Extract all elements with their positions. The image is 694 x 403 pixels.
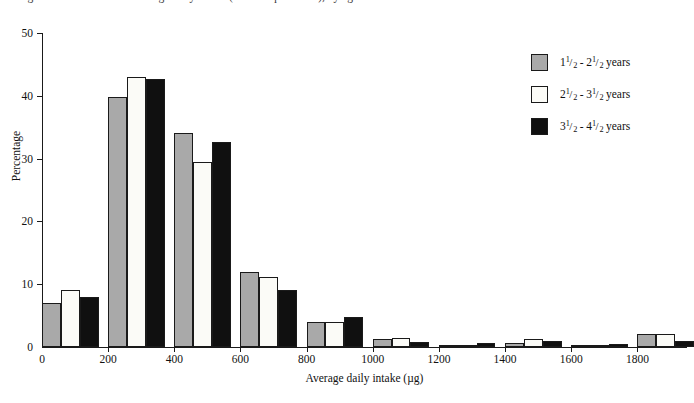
bar	[675, 341, 694, 347]
bar	[392, 338, 411, 347]
bar	[543, 341, 562, 347]
y-tick-label-text: 40	[22, 90, 34, 102]
bar	[439, 345, 458, 347]
x-tick-label-text: 1000	[361, 353, 384, 365]
bar	[240, 272, 259, 347]
x-tick-mark	[307, 347, 308, 352]
y-axis-title: Percentage	[10, 96, 22, 216]
bar	[42, 303, 61, 347]
x-tick-label-text: 1200	[427, 353, 450, 365]
chart-legend: 11/2 - 21/2 years21/2 - 31/2 years31/2 -…	[531, 54, 681, 150]
gray-swatch	[531, 54, 548, 71]
bar	[80, 297, 99, 347]
x-tick-label-text: 1600	[560, 353, 583, 365]
bar	[458, 345, 477, 347]
bar	[477, 343, 496, 347]
bar	[325, 322, 344, 347]
legend-item[interactable]: 31/2 - 41/2 years	[531, 118, 681, 150]
x-tick-label-text: 600	[232, 353, 249, 365]
y-tick-label-text: 50	[22, 27, 34, 39]
bar	[108, 97, 127, 347]
bar	[656, 334, 675, 347]
bar	[61, 290, 80, 347]
bar	[212, 142, 231, 347]
bar	[193, 162, 212, 347]
x-tick-mark	[174, 347, 175, 352]
y-tick-label-text: 30	[22, 153, 34, 165]
x-tick-label-text: 800	[298, 353, 315, 365]
legend-item-label: 21/2 - 31/2 years	[560, 86, 630, 103]
x-tick-label-text: 0	[39, 353, 45, 365]
legend-item[interactable]: 21/2 - 31/2 years	[531, 86, 681, 118]
bar	[127, 77, 146, 347]
bar	[373, 339, 392, 347]
x-tick-mark	[373, 347, 374, 352]
x-tick-mark	[108, 347, 109, 352]
x-tick-mark	[571, 347, 572, 352]
bar	[609, 344, 628, 347]
x-tick-label-text: 200	[100, 353, 117, 365]
x-tick-mark	[637, 347, 638, 352]
white-swatch	[531, 86, 548, 103]
x-axis-line	[42, 347, 687, 348]
x-tick-mark	[439, 347, 440, 352]
bar	[410, 342, 429, 347]
x-tick-label-text: 1800	[626, 353, 649, 365]
legend-item-label: 11/2 - 21/2 years	[560, 54, 630, 71]
x-tick-label-text: 400	[166, 353, 183, 365]
bar	[278, 290, 297, 347]
bar	[637, 334, 656, 347]
x-tick-label-text: 1400	[494, 353, 517, 365]
x-tick-mark	[240, 347, 241, 352]
bar	[146, 79, 165, 347]
bar	[505, 343, 524, 347]
bar	[571, 345, 590, 347]
y-tick-label-text: 20	[22, 215, 34, 227]
bar	[174, 133, 193, 347]
bar	[307, 322, 326, 347]
legend-item-label: 31/2 - 41/2 years	[560, 118, 630, 135]
bar	[259, 277, 278, 347]
x-tick-mark	[505, 347, 506, 352]
legend-item[interactable]: 11/2 - 21/2 years	[531, 54, 681, 86]
x-axis-title: Average daily intake (µg)	[42, 372, 687, 384]
bar	[524, 339, 543, 347]
y-tick-label-text: 0	[27, 341, 33, 353]
bar	[590, 345, 609, 347]
bar	[344, 317, 363, 347]
black-swatch	[531, 118, 548, 135]
y-tick-label-text: 10	[22, 278, 34, 290]
